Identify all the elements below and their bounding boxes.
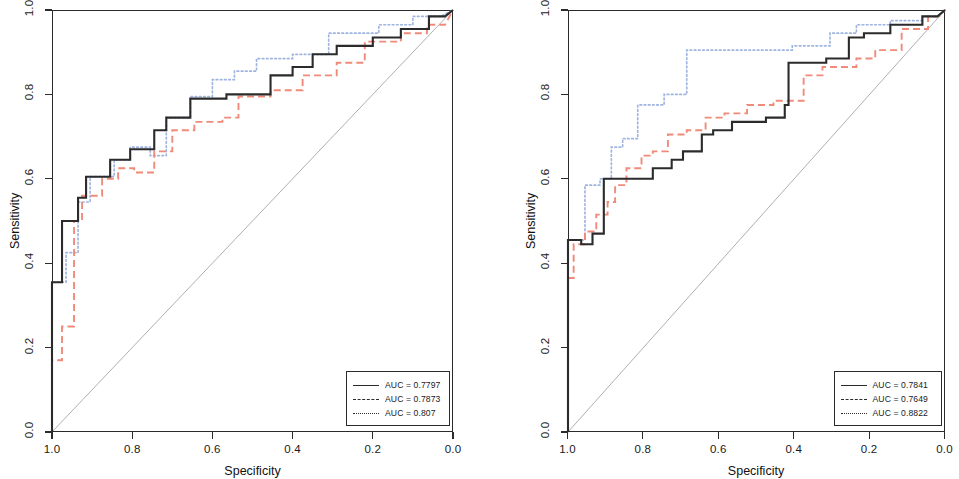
y-tick-label: 0.2: [23, 335, 35, 357]
y-tick-mark: [45, 94, 52, 95]
legend-line-dashed-icon: [353, 394, 379, 404]
x-axis-title-right: Specificity: [728, 464, 784, 478]
x-tick-mark: [793, 432, 794, 439]
y-tick-label: 0.6: [539, 166, 551, 188]
y-tick-label: 0.6: [23, 166, 35, 188]
y-axis-title-left: Sensitivity: [8, 193, 22, 249]
reference-diagonal: [52, 10, 453, 432]
legend-label: AUC = 0.7649: [873, 394, 928, 404]
y-tick-label: 0.8: [539, 81, 551, 103]
y-axis-title-right: Sensitivity: [524, 193, 538, 249]
x-tick-label: 1.0: [559, 443, 576, 455]
x-tick-mark: [718, 432, 719, 439]
x-tick-label: 0.0: [936, 443, 953, 455]
reference-diagonal: [568, 10, 945, 432]
x-tick-label: 0.2: [861, 443, 878, 455]
y-tick-mark: [45, 431, 52, 432]
x-tick-label: 0.6: [710, 443, 727, 455]
legend-label: AUC = 0.807: [385, 408, 436, 418]
legend-line-solid-icon: [841, 380, 867, 390]
legend-label: AUC = 0.8822: [873, 408, 928, 418]
x-tick-label: 0.4: [785, 443, 802, 455]
x-tick-mark: [452, 432, 453, 439]
legend-item: AUC = 0.7797: [353, 378, 442, 391]
x-tick-mark: [292, 432, 293, 439]
y-tick-mark: [45, 178, 52, 179]
x-tick-mark: [132, 432, 133, 439]
legend-line-solid-icon: [353, 380, 379, 390]
x-tick-mark: [51, 432, 52, 439]
legend-label: AUC = 0.7873: [385, 394, 440, 404]
x-tick-mark: [567, 432, 568, 439]
legend-item: AUC = 0.7649: [841, 392, 934, 405]
x-tick-label: 0.2: [365, 443, 382, 455]
x-tick-mark: [212, 432, 213, 439]
y-tick-mark: [561, 263, 568, 264]
legend-label: AUC = 0.7841: [873, 380, 928, 390]
x-tick-mark: [869, 432, 870, 439]
legend-left: AUC = 0.7797 AUC = 0.7873 AUC = 0.807: [346, 371, 450, 426]
legend-item: AUC = 0.7841: [841, 378, 934, 391]
x-tick-label: 0.8: [124, 443, 141, 455]
right-panel: 1.00.80.60.40.20.00.00.20.40.60.81.0 Spe…: [480, 0, 959, 479]
y-tick-mark: [561, 9, 568, 10]
x-tick-mark: [372, 432, 373, 439]
legend-line-dotted-icon: [353, 408, 379, 418]
left-panel: 1.00.80.60.40.20.00.00.20.40.60.81.0 Spe…: [0, 0, 480, 479]
y-tick-label: 0.2: [539, 335, 551, 357]
y-tick-mark: [561, 94, 568, 95]
legend-line-dotted-icon: [841, 408, 867, 418]
x-tick-label: 0.8: [635, 443, 652, 455]
roc-figure: 1.00.80.60.40.20.00.00.20.40.60.81.0 Spe…: [0, 0, 959, 479]
y-tick-label: 1.0: [23, 0, 35, 19]
legend-item: AUC = 0.7873: [353, 392, 442, 405]
y-tick-mark: [45, 9, 52, 10]
y-tick-label: 1.0: [539, 0, 551, 19]
y-tick-mark: [45, 347, 52, 348]
legend-line-dashed-icon: [841, 394, 867, 404]
x-tick-mark: [642, 432, 643, 439]
y-tick-label: 0.0: [539, 419, 551, 441]
x-tick-mark: [944, 432, 945, 439]
legend-item: AUC = 0.8822: [841, 406, 934, 419]
x-tick-label: 0.0: [445, 443, 462, 455]
y-tick-mark: [45, 263, 52, 264]
y-tick-label: 0.8: [23, 81, 35, 103]
x-tick-label: 0.6: [204, 443, 221, 455]
legend-item: AUC = 0.807: [353, 406, 442, 419]
y-tick-mark: [561, 347, 568, 348]
y-tick-label: 0.0: [23, 419, 35, 441]
y-tick-mark: [561, 178, 568, 179]
legend-label: AUC = 0.7797: [385, 380, 440, 390]
x-tick-label: 1.0: [44, 443, 61, 455]
x-axis-title-left: Specificity: [224, 464, 280, 478]
x-tick-label: 0.4: [284, 443, 301, 455]
y-tick-label: 0.4: [23, 250, 35, 272]
legend-right: AUC = 0.7841 AUC = 0.7649 AUC = 0.8822: [834, 371, 942, 426]
y-tick-mark: [561, 431, 568, 432]
y-tick-label: 0.4: [539, 250, 551, 272]
